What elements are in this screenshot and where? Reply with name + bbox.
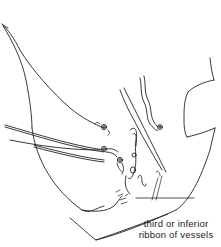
label-line-2: ribbon of vessels	[132, 230, 220, 241]
vessels	[120, 76, 166, 194]
anatomical-illustration	[0, 0, 221, 247]
inferior-ribbon-label: third or inferior ribbon of vessels	[132, 219, 220, 240]
retracted-flap	[2, 24, 104, 128]
sutures	[5, 125, 104, 162]
label-line-1: third or inferior	[132, 219, 220, 230]
ligature-clamps	[95, 123, 124, 175]
right-tissue	[184, 58, 215, 137]
